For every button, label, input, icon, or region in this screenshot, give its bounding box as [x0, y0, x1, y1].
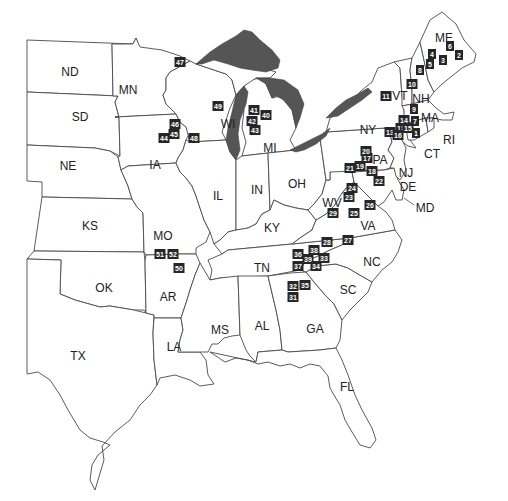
site-marker-43: 43: [250, 125, 261, 135]
state-label-fl: FL: [340, 380, 354, 394]
site-marker-label: 41: [250, 107, 258, 114]
state-label-ms: MS: [211, 323, 229, 337]
site-marker-label: 23: [345, 194, 353, 201]
state-label-wi: WI: [221, 117, 236, 131]
state-label-oh: OH: [288, 177, 306, 191]
site-marker-39: 39: [303, 254, 314, 264]
site-marker-label: 35: [301, 282, 309, 289]
state-label-pa: PA: [372, 153, 387, 167]
state-label-nc: NC: [363, 255, 381, 269]
site-marker-label: 46: [171, 121, 179, 128]
state-label-ne: NE: [60, 159, 77, 173]
site-marker-36: 36: [293, 249, 304, 259]
state-label-nd: ND: [61, 65, 79, 79]
state-label-wv: WV: [322, 196, 341, 210]
site-marker-label: 39: [304, 256, 312, 263]
site-marker-label: 14: [400, 117, 408, 124]
site-marker-label: 37: [294, 263, 302, 270]
site-marker-40: 40: [261, 110, 272, 120]
site-marker-label: 2: [457, 52, 461, 59]
state-label-il: IL: [213, 189, 223, 203]
site-marker-42: 42: [247, 116, 258, 126]
state-label-ok: OK: [95, 281, 112, 295]
site-marker-label: 52: [169, 251, 177, 258]
site-marker-51: 51: [155, 249, 166, 259]
site-marker-6: 6: [446, 41, 454, 51]
site-marker-31: 31: [288, 292, 299, 302]
site-marker-label: 26: [366, 202, 374, 209]
site-marker-11: 11: [381, 91, 392, 101]
state-label-ct: CT: [424, 147, 441, 161]
site-marker-29: 29: [328, 208, 339, 218]
site-marker-label: 45: [170, 131, 178, 138]
site-marker-label: 7: [413, 118, 417, 125]
site-marker-45: 45: [169, 129, 180, 139]
state-label-de: DE: [400, 180, 417, 194]
site-marker-49: 49: [213, 101, 224, 111]
site-marker-9: 9: [410, 104, 418, 114]
site-marker-label: 11: [382, 93, 390, 100]
site-marker-38: 38: [309, 245, 320, 255]
state-label-ks: KS: [82, 219, 98, 233]
site-marker-27: 27: [343, 235, 354, 245]
site-marker-2: 2: [455, 50, 463, 60]
site-marker-label: 1: [414, 130, 418, 137]
site-marker-32: 32: [288, 281, 299, 291]
site-marker-label: 42: [248, 118, 256, 125]
site-marker-label: 43: [251, 127, 259, 134]
site-marker-label: 5: [428, 61, 432, 68]
site-marker-18: 18: [367, 166, 378, 176]
site-marker-label: 20: [362, 148, 370, 155]
state-fl: [210, 348, 376, 448]
site-marker-label: 51: [156, 251, 164, 258]
site-marker-label: 47: [176, 59, 184, 66]
site-marker-label: 19: [356, 163, 364, 170]
site-marker-50: 50: [174, 263, 185, 273]
site-marker-47: 47: [175, 57, 186, 67]
site-marker-23: 23: [344, 192, 355, 202]
site-marker-46: 46: [170, 119, 181, 129]
site-marker-26: 26: [365, 200, 376, 210]
site-marker-label: 38: [310, 247, 318, 254]
site-marker-label: 10: [408, 81, 416, 88]
site-marker-label: 32: [289, 283, 297, 290]
site-marker-label: 3: [441, 57, 445, 64]
state-label-sd: SD: [72, 110, 89, 124]
site-marker-label: 29: [329, 210, 337, 217]
state-label-ga: GA: [306, 322, 323, 336]
state-label-sc: SC: [340, 283, 357, 297]
site-marker-44: 44: [159, 133, 170, 143]
site-marker-label: 36: [294, 251, 302, 258]
site-marker-label: 21: [346, 165, 354, 172]
state-label-tx: TX: [70, 349, 85, 363]
site-marker-label: 24: [348, 185, 356, 192]
site-marker-label: 44: [160, 135, 168, 142]
md-leader-line: [404, 198, 414, 205]
state-label-mo: MO: [153, 229, 172, 243]
site-marker-label: 40: [262, 112, 270, 119]
state-label-ny: NY: [360, 123, 377, 137]
site-marker-24: 24: [347, 183, 358, 193]
site-marker-5: 5: [426, 59, 434, 69]
site-marker-label: 22: [375, 178, 383, 185]
state-label-md: MD: [416, 201, 435, 215]
site-marker-label: 28: [323, 239, 331, 246]
state-label-la: LA: [167, 340, 182, 354]
site-marker-22: 22: [374, 176, 385, 186]
site-marker-8: 8: [416, 65, 424, 75]
site-marker-label: 4: [430, 51, 434, 58]
site-marker-label: 6: [448, 43, 452, 50]
site-marker-label: 27: [344, 237, 352, 244]
site-marker-41: 41: [249, 105, 260, 115]
site-marker-19: 19: [355, 161, 366, 171]
site-marker-37: 37: [293, 261, 304, 271]
site-marker-label: 16: [394, 132, 402, 139]
state-label-ri: RI: [443, 133, 455, 147]
state-label-nj: NJ: [399, 166, 414, 180]
state-label-ar: AR: [160, 290, 177, 304]
site-marker-label: 25: [350, 210, 358, 217]
site-marker-label: 8: [418, 67, 422, 74]
site-marker-label: 15: [404, 125, 412, 132]
site-marker-label: 9: [412, 106, 416, 113]
site-marker-16: 16: [393, 130, 404, 140]
